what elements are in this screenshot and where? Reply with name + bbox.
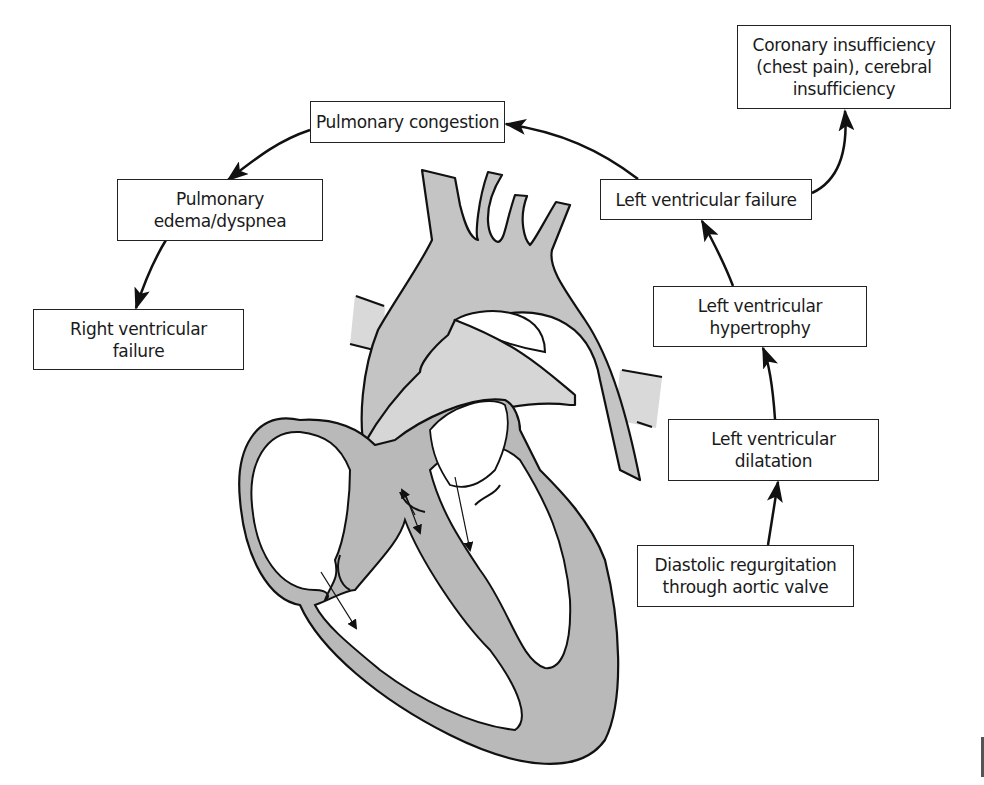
- node-coronary-insufficiency: Coronary insufficiency (chest pain), cer…: [737, 25, 951, 109]
- arrow-congestion-to-edema: [228, 130, 310, 180]
- node-left-ventricular-failure: Left ventricular failure: [600, 179, 812, 220]
- node-lv-dilatation: Left ventricular dilatation: [668, 419, 879, 481]
- node-line: Left ventricular: [711, 428, 836, 450]
- node-line: through aortic valve: [663, 576, 829, 598]
- arrow-lvf-to-coronary: [812, 111, 846, 193]
- arrow-dilatation-to-hypertrophy: [763, 348, 775, 419]
- arrow-edema-to-rvf: [136, 240, 166, 308]
- heart: [239, 399, 618, 764]
- node-line: Coronary insufficiency: [753, 34, 936, 56]
- node-pulmonary-congestion: Pulmonary congestion: [310, 101, 505, 143]
- node-line: insufficiency: [793, 78, 896, 100]
- node-line: Diastolic regurgitation: [655, 554, 837, 576]
- arrow-regurg-to-dilatation: [768, 482, 778, 545]
- node-lv-hypertrophy: Left ventricular hypertrophy: [653, 286, 867, 347]
- node-line: Left ventricular: [698, 295, 823, 317]
- arrow-lvf-to-congestion: [506, 124, 638, 179]
- arrow-hypertrophy-to-lvf: [702, 221, 733, 286]
- node-pulmonary-edema: Pulmonary edema/dyspnea: [117, 179, 323, 241]
- node-line: hypertrophy: [709, 317, 810, 339]
- node-line: edema/dyspnea: [154, 210, 287, 232]
- node-diastolic-regurgitation: Diastolic regurgitation through aortic v…: [637, 545, 854, 607]
- node-line: Pulmonary: [176, 188, 264, 210]
- node-line: Left ventricular failure: [615, 189, 796, 211]
- node-line: Pulmonary congestion: [316, 111, 499, 133]
- node-line: (chest pain), cerebral: [756, 56, 932, 78]
- node-right-ventricular-failure: Right ventricular failure: [33, 309, 244, 370]
- node-line: failure: [113, 340, 165, 362]
- node-line: dilatation: [735, 450, 812, 472]
- node-line: Right ventricular: [70, 318, 207, 340]
